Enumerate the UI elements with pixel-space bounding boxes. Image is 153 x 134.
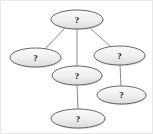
- node-label: ?: [76, 114, 81, 124]
- graph-node[interactable]: ?: [51, 109, 106, 129]
- node-label: ?: [33, 53, 38, 63]
- node-label: ?: [75, 15, 80, 25]
- nodes-layer: ??????: [10, 10, 147, 129]
- graph-node[interactable]: ?: [51, 10, 104, 30]
- graph-node[interactable]: ?: [52, 66, 103, 86]
- graph-node[interactable]: ?: [10, 48, 62, 68]
- graph-edge: [45, 28, 65, 49]
- graph-diagram: ??????: [1, 1, 153, 134]
- node-label: ?: [119, 90, 124, 100]
- graph-edge: [77, 85, 78, 109]
- node-label: ?: [117, 51, 122, 61]
- graph-node[interactable]: ?: [97, 86, 147, 105]
- graph-node[interactable]: ?: [94, 46, 146, 66]
- node-label: ?: [75, 71, 80, 81]
- graph-edge: [120, 65, 121, 86]
- diagram-canvas: ??????: [0, 0, 153, 134]
- graph-edge: [90, 28, 111, 47]
